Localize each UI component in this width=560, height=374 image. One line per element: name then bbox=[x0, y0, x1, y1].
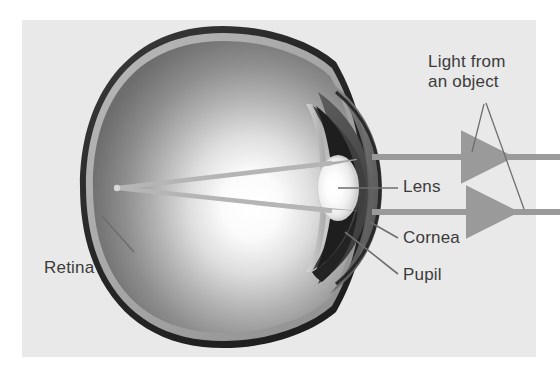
label-light-line1: Light from bbox=[428, 52, 506, 71]
label-light-from-an-object: Light froman object bbox=[428, 52, 506, 92]
light-rays bbox=[372, 157, 560, 212]
label-light-line2: an object bbox=[428, 72, 499, 91]
eye-diagram-figure: Light froman object Lens Cornea Pupil Re… bbox=[0, 0, 560, 374]
retinal-focal-point bbox=[114, 185, 120, 191]
label-cornea: Cornea bbox=[403, 228, 460, 248]
leader-light-upper bbox=[472, 104, 484, 152]
label-retina: Retina bbox=[44, 258, 94, 278]
label-lens: Lens bbox=[403, 177, 441, 197]
label-pupil: Pupil bbox=[403, 265, 442, 285]
